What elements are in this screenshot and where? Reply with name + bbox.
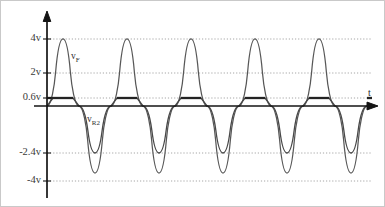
- y-tick-label-4v: 4v: [1, 32, 41, 43]
- plot-canvas: [1, 1, 385, 207]
- y-axis-arrowhead: [43, 11, 51, 22]
- y-tick-label-0.6v: 0.6v: [1, 91, 41, 102]
- y-tick-label-2v: 2v: [1, 66, 41, 77]
- x-axis-label: t: [368, 87, 371, 98]
- curve-label-vr2-sub: R2: [92, 119, 100, 127]
- gridlines: [47, 39, 371, 181]
- y-tick-label--4v: -4v: [1, 174, 41, 185]
- waveform-figure: 4v 2v 0.6v -2.4v -4v t vF vR2: [0, 0, 385, 207]
- curve-label-vr2: vR2: [87, 114, 100, 127]
- y-tick-label--2.4v: -2.4v: [1, 146, 41, 157]
- curve-label-vf-sub: F: [76, 56, 80, 64]
- x-axis-arrowhead: [367, 102, 378, 110]
- curve-label-vf: vF: [71, 51, 80, 64]
